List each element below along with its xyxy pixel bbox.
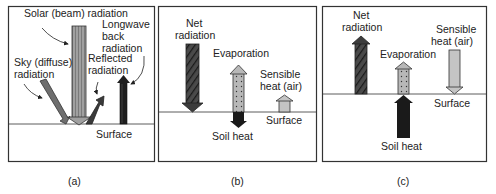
caption-c: (c) — [397, 175, 409, 187]
panel-a: Solar (beam) radiation Longwave back rad… — [9, 7, 155, 188]
evaporation-label-c: Evaporation — [380, 48, 436, 60]
surface-label-c: Surface — [434, 97, 470, 109]
reflected-label-2: radiation — [88, 64, 128, 76]
surface-label-b: Surface — [266, 114, 302, 126]
net-label-2-c: radiation — [342, 21, 382, 33]
panel-c: Net radiation Evaporation Sensible heat … — [323, 7, 487, 188]
sky-label-1: Sky (diffuse) — [14, 56, 72, 68]
caption-a: (a) — [68, 175, 81, 187]
net-label-2-b: radiation — [175, 29, 215, 41]
net-label-1-c: Net — [353, 9, 369, 21]
sensible-label-1-c: Sensible — [436, 23, 476, 35]
panel-b: Net radiation Evaporation Sensible heat … — [159, 7, 317, 188]
sensible-label-1-b: Sensible — [260, 68, 300, 80]
energy-balance-figure: Solar (beam) radiation Longwave back rad… — [0, 0, 496, 194]
soil-label-c: Soil heat — [381, 140, 422, 152]
reflected-label-1: Reflected — [88, 52, 133, 64]
sky-label-2: radiation — [14, 68, 54, 80]
surface-label-a: Surface — [96, 128, 132, 140]
longwave-label-1: Longwave — [102, 18, 150, 30]
net-radiation-arrow-c — [352, 36, 370, 94]
longwave-label-2: back — [102, 30, 125, 42]
evaporation-label-b: Evaporation — [213, 47, 269, 59]
sensible-label-2-b: heat (air) — [260, 80, 302, 92]
sensible-label-2-c: heat (air) — [431, 35, 473, 47]
net-label-1-b: Net — [186, 17, 202, 29]
soil-label-b: Soil heat — [212, 130, 253, 142]
caption-b: (b) — [231, 175, 244, 187]
